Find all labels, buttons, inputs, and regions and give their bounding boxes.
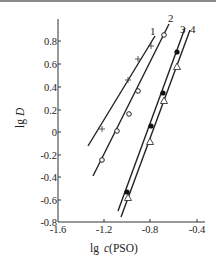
line-2	[93, 24, 169, 176]
series-1-markers	[99, 43, 154, 132]
y-tick-0.2: 0.2	[44, 105, 57, 116]
series-label-1: 1	[150, 25, 156, 37]
y-axis-title: lgD	[14, 107, 27, 128]
x-tick-neg1.2: -1.2	[96, 224, 113, 235]
y-axis	[58, 19, 61, 222]
y-tick-labels: 0.8 0.6 0.4 0.2 0 -0.2 -0.4 -0.6 -0.8	[40, 36, 57, 228]
y-tick-neg0.6: -0.6	[40, 195, 57, 206]
x-tick-neg1.6: -1.6	[50, 224, 67, 235]
line-4	[121, 30, 190, 217]
y-tick-0.4: 0.4	[44, 82, 58, 93]
y-tick-0: 0	[52, 127, 57, 138]
x-axis-title: lgc(PSO)	[90, 242, 138, 255]
x-axis	[58, 219, 205, 222]
line-1	[88, 36, 155, 146]
series-label-2: 2	[168, 12, 174, 24]
line-3	[118, 28, 185, 211]
series-label-4: 4	[190, 23, 196, 35]
x-tick-labels: -1.6 -1.2 -0.8 -0.4	[50, 224, 206, 235]
series-label-3: 3	[180, 23, 186, 35]
chart: 0.8 0.6 0.4 0.2 0 -0.2 -0.4 -0.6 -0.8 -1…	[0, 0, 216, 265]
y-tick-0.8: 0.8	[44, 36, 57, 47]
y-tick-neg0.2: -0.2	[40, 150, 57, 161]
series-labels: 1 2 3 4	[150, 12, 196, 37]
x-tick-neg0.4: -0.4	[189, 224, 206, 235]
y-tick-0.6: 0.6	[44, 59, 57, 70]
y-tick-neg0.4: -0.4	[40, 172, 57, 183]
x-tick-neg0.8: -0.8	[142, 224, 159, 235]
